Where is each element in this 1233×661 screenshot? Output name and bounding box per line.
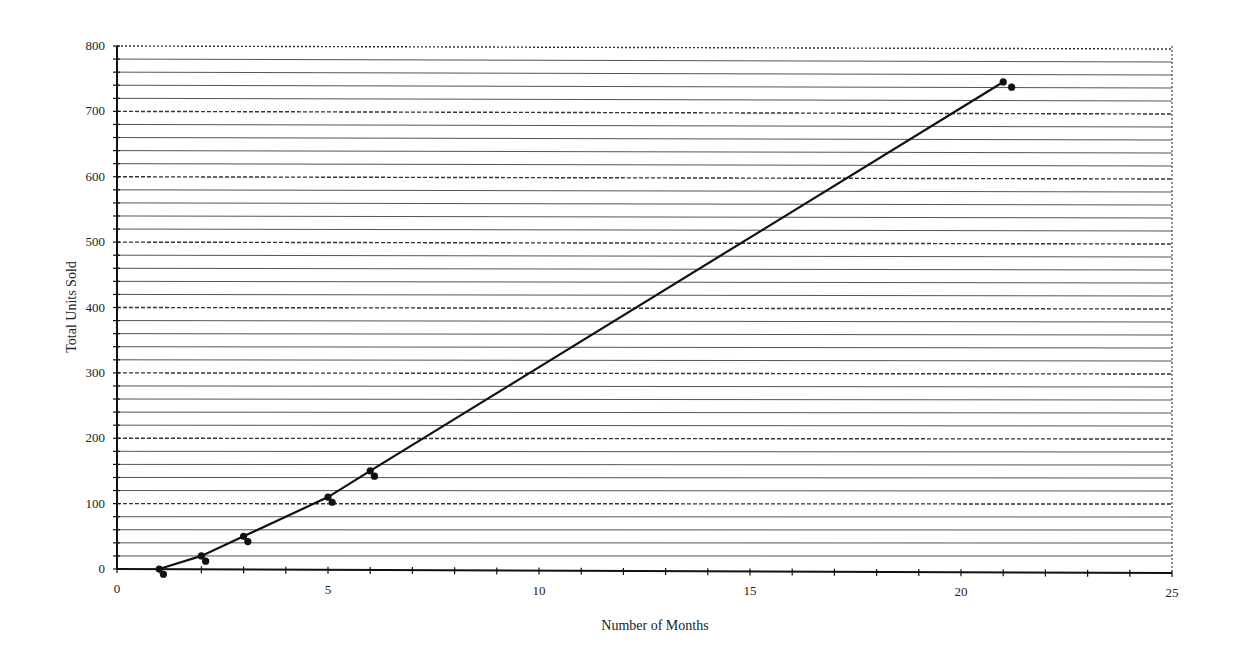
minor-gridline: [117, 321, 1172, 322]
y-tick-label: 200: [86, 430, 106, 445]
y-tick-label: 700: [86, 103, 106, 118]
y-tick-label: 0: [99, 561, 106, 576]
major-gridline: [117, 46, 1172, 49]
line-chart: 0510152025 0100200300400500600700800 Num…: [0, 0, 1233, 661]
x-tick-label: 20: [955, 584, 968, 599]
x-axis-title: Number of Months: [601, 618, 708, 633]
series-line: [159, 82, 1003, 569]
minor-gridline: [117, 399, 1172, 400]
gridlines: [117, 46, 1172, 556]
minor-gridline: [117, 138, 1172, 140]
minor-gridline: [117, 190, 1172, 192]
x-tick-label: 0: [114, 581, 121, 596]
minor-gridline: [117, 229, 1172, 231]
minor-gridline: [117, 425, 1172, 426]
major-gridline: [117, 438, 1172, 439]
minor-gridline: [117, 59, 1172, 62]
data-point-marker: [1000, 78, 1007, 85]
minor-gridline: [117, 216, 1172, 218]
minor-gridline: [117, 360, 1172, 361]
major-gridline: [117, 111, 1172, 114]
data-point-marker: [371, 473, 378, 480]
data-point-marker: [329, 499, 336, 506]
minor-gridline: [117, 386, 1172, 387]
data-point-marker: [244, 538, 251, 545]
minor-gridline: [117, 464, 1172, 465]
y-tick-label: 600: [86, 169, 106, 184]
minor-gridline: [117, 477, 1172, 478]
minor-gridline: [117, 294, 1172, 296]
data-point-marker: [202, 558, 209, 565]
minor-gridline: [117, 412, 1172, 413]
data-series: [156, 78, 1016, 577]
minor-gridline: [117, 451, 1172, 452]
y-axis-title: Total Units Sold: [64, 261, 79, 353]
major-gridline: [117, 242, 1172, 244]
x-axis-line: [117, 569, 1172, 573]
x-tick-label: 25: [1166, 585, 1179, 600]
data-point-marker: [160, 571, 167, 578]
minor-gridline: [117, 72, 1172, 75]
y-tick-label: 500: [86, 234, 106, 249]
y-axis-ticks: 0100200300400500600700800: [86, 38, 121, 576]
x-tick-label: 10: [533, 583, 546, 598]
minor-gridline: [117, 347, 1172, 348]
major-gridline: [117, 308, 1172, 310]
minor-gridline: [117, 98, 1172, 101]
x-tick-label: 5: [325, 582, 332, 597]
x-tick-label: 15: [744, 583, 757, 598]
major-gridline: [117, 373, 1172, 374]
minor-gridline: [117, 255, 1172, 257]
minor-gridline: [117, 281, 1172, 283]
minor-gridline: [117, 203, 1172, 205]
minor-gridline: [117, 151, 1172, 153]
minor-gridline: [117, 268, 1172, 270]
y-tick-label: 800: [86, 38, 106, 53]
minor-gridline: [117, 124, 1172, 127]
minor-gridline: [117, 334, 1172, 335]
data-point-marker: [1008, 84, 1015, 91]
minor-gridline: [117, 164, 1172, 166]
y-tick-label: 100: [86, 496, 106, 511]
major-gridline: [117, 177, 1172, 179]
y-tick-label: 300: [86, 365, 106, 380]
y-tick-label: 400: [86, 300, 106, 315]
